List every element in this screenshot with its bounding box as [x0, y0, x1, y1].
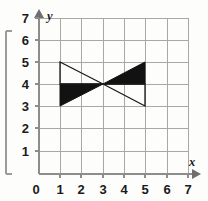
x-tick-label-5: 5 [141, 182, 148, 197]
y-tick-label-1: 1 [22, 144, 29, 159]
x-tick-label-7: 7 [184, 182, 191, 197]
y-tick-label-7: 7 [22, 11, 29, 26]
y-axis-arrowhead [34, 9, 44, 18]
x-axis-arrowhead [192, 169, 201, 179]
x-tick-label-1: 1 [56, 182, 63, 197]
coordinate-grid-figure: 7 6 5 4 3 2 1 0 1 2 3 4 5 6 7 y x [0, 0, 208, 201]
y-tick-label-5: 5 [22, 55, 29, 70]
y-tick-label-2: 2 [22, 121, 29, 136]
x-tick-label-3: 3 [99, 182, 106, 197]
y-tick-label-4: 4 [22, 77, 30, 92]
y-tick-label-6: 6 [22, 33, 29, 48]
y-axis-label: y [45, 9, 53, 23]
x-tick-label-2: 2 [77, 182, 84, 197]
x-axis-label: x [188, 155, 195, 169]
x-tick-label-0: 0 [32, 182, 39, 197]
x-tick-label-6: 6 [163, 182, 170, 197]
plot-area: 7 6 5 4 3 2 1 0 1 2 3 4 5 6 7 y x [0, 0, 208, 201]
x-tick-label-4: 4 [120, 182, 128, 197]
y-tick-label-3: 3 [22, 99, 29, 114]
